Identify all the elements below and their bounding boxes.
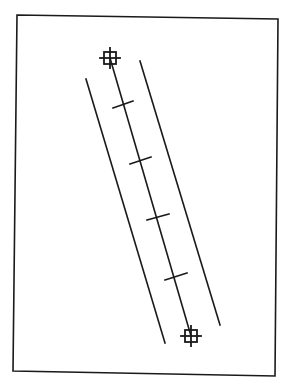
- frame-border: [13, 15, 278, 376]
- tick-marks: [113, 101, 187, 280]
- boundary-lines: [86, 61, 220, 343]
- diagram-canvas: [0, 0, 289, 387]
- bottom-crosshair-icon: [181, 326, 201, 346]
- top-crosshair-icon: [100, 48, 120, 68]
- tick-mark: [147, 214, 169, 220]
- diagram-figure: [0, 0, 289, 387]
- left-boundary: [86, 79, 165, 343]
- right-boundary: [140, 61, 220, 325]
- tick-mark: [165, 273, 187, 280]
